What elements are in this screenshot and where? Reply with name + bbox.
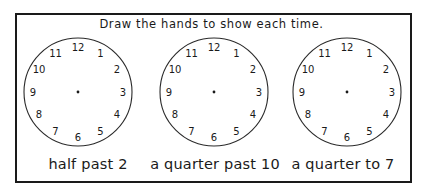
clock-3-numeral-2: 2 [383, 64, 389, 75]
clock-2[interactable]: 121234567891011 [160, 38, 268, 146]
clock-2-time-label: a quarter past 10 [146, 155, 284, 173]
clock-2-numeral-11: 11 [185, 48, 198, 59]
clock-1-numeral-12: 12 [72, 42, 85, 53]
clock-3-numeral-1: 1 [366, 48, 372, 59]
clock-2-numeral-3: 3 [256, 87, 262, 98]
clock-1-numeral-8: 8 [36, 109, 42, 120]
clock-1-numeral-9: 9 [30, 87, 36, 98]
clock-1-numeral-4: 4 [114, 109, 120, 120]
clock-1-numeral-2: 2 [114, 64, 120, 75]
clock-3-numeral-12: 12 [341, 42, 354, 53]
clock-1-numeral-10: 10 [33, 64, 46, 75]
clock-2-numeral-9: 9 [166, 87, 172, 98]
clock-3-numeral-4: 4 [383, 109, 389, 120]
clock-3-numeral-11: 11 [318, 48, 331, 59]
clock-2-numeral-4: 4 [250, 109, 256, 120]
clock-3-time-label: a quarter to 7 [288, 155, 398, 173]
clock-1[interactable]: 121234567891011 [24, 38, 132, 146]
clock-3[interactable]: 121234567891011 [293, 38, 401, 146]
clock-2-numeral-5: 5 [233, 126, 239, 137]
clock-3-numeral-7: 7 [321, 126, 327, 137]
clock-1-numeral-1: 1 [97, 48, 103, 59]
clock-1-center-dot [77, 91, 80, 94]
clock-1-time-label: half past 2 [38, 155, 138, 173]
clock-2-numeral-7: 7 [188, 126, 194, 137]
clock-2-center-dot [213, 91, 216, 94]
clock-2-numeral-2: 2 [250, 64, 256, 75]
clock-3-numeral-10: 10 [302, 64, 315, 75]
clock-2-numeral-10: 10 [169, 64, 182, 75]
clock-1-numeral-6: 6 [75, 132, 81, 143]
clock-2-numeral-6: 6 [211, 132, 217, 143]
clock-2-numeral-1: 1 [233, 48, 239, 59]
clock-2-numeral-12: 12 [208, 42, 221, 53]
clock-3-numeral-6: 6 [344, 132, 350, 143]
clock-1-numeral-3: 3 [120, 87, 126, 98]
clock-3-numeral-8: 8 [305, 109, 311, 120]
clock-1-numeral-11: 11 [49, 48, 62, 59]
clock-1-numeral-5: 5 [97, 126, 103, 137]
clock-3-numeral-3: 3 [389, 87, 395, 98]
clock-3-center-dot [346, 91, 349, 94]
clock-3-numeral-5: 5 [366, 126, 372, 137]
clock-1-numeral-7: 7 [52, 126, 58, 137]
clock-2-numeral-8: 8 [172, 109, 178, 120]
clock-3-numeral-9: 9 [299, 87, 305, 98]
